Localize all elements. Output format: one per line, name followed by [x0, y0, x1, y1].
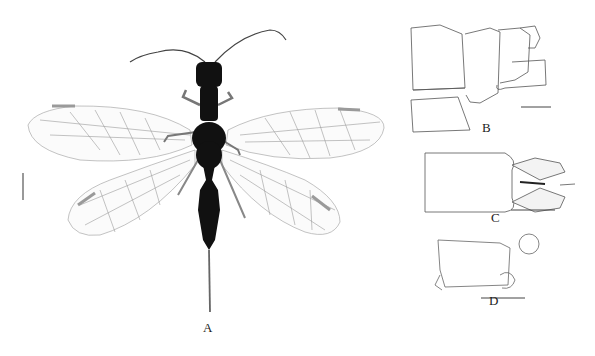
pterostigma-right-fore: [338, 109, 360, 110]
panel-label-c: C: [491, 210, 500, 226]
forewing-right: [226, 108, 384, 159]
insect-body: [192, 62, 226, 250]
hindwing-left: [68, 150, 195, 235]
hindwing-right: [222, 150, 340, 234]
panel-a-habitus: [0, 0, 595, 356]
panel-d-drawing: [435, 234, 539, 290]
figure: A B C D: [0, 0, 595, 356]
ovipositor: [209, 250, 210, 312]
panel-label-a: A: [203, 320, 212, 336]
panel-label-b: B: [482, 120, 491, 136]
forewing-left: [28, 106, 192, 161]
panel-c-drawing: [425, 153, 575, 212]
panel-b-drawing: [411, 25, 546, 132]
panel-label-d: D: [489, 293, 498, 309]
